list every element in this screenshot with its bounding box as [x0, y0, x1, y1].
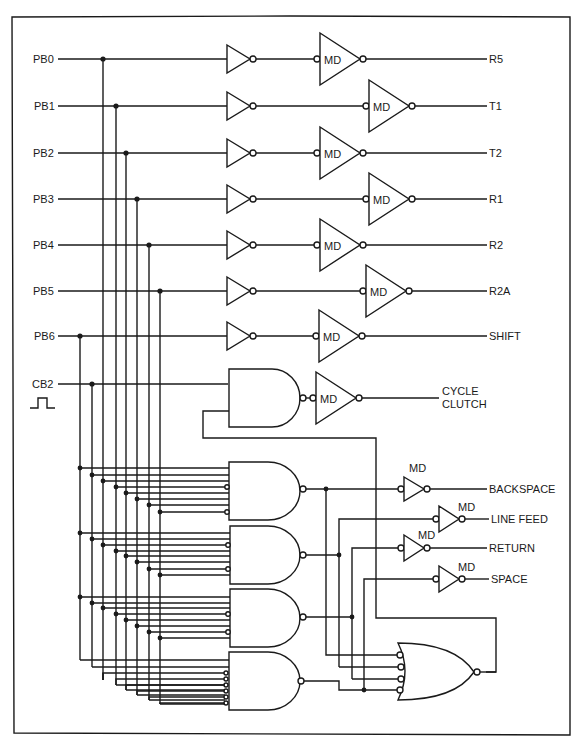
input-label-pb0: PB0 [33, 53, 54, 65]
svg-text:MD: MD [324, 240, 341, 252]
input-label-cb2: CB2 [32, 378, 53, 390]
svg-text:MD: MD [324, 148, 341, 160]
output-label-t2: T2 [489, 147, 502, 159]
inverter-icon [227, 231, 250, 259]
row-pb1: MD T1 [227, 80, 502, 132]
output-label-clutch: CLUTCH [442, 398, 487, 410]
nand-gate-icon [229, 462, 300, 520]
svg-text:MD: MD [323, 331, 340, 343]
input-wires [58, 59, 228, 384]
output-label-cycle: CYCLE [442, 385, 479, 397]
logic-diagram: PB0 PB1 PB2 PB3 PB4 PB5 PB6 CB2 [0, 0, 582, 741]
decode-gate-backspace [78, 462, 306, 520]
output-label-return: RETURN [489, 542, 535, 554]
row-pb4: MD R2 [227, 219, 503, 271]
nand-gate-icon [230, 589, 300, 647]
row-pb2: MD T2 [227, 127, 502, 179]
inverter-icon [227, 45, 250, 73]
row-pb6: MD SHIFT [227, 310, 521, 362]
svg-text:MD: MD [458, 561, 475, 573]
inverter-icon [227, 92, 250, 120]
md-driver-icon [439, 566, 459, 592]
input-label-pb4: PB4 [33, 239, 54, 251]
output-label-r1: R1 [489, 193, 503, 205]
input-label-pb3: PB3 [33, 193, 54, 205]
output-label-t1: T1 [489, 100, 502, 112]
svg-text:MD: MD [370, 286, 387, 298]
row-pb3: MD R1 [227, 173, 503, 225]
nor-gate [397, 643, 496, 700]
inverter-icon [227, 139, 250, 167]
clock-pulse-icon [30, 398, 55, 408]
svg-text:MD: MD [373, 101, 390, 113]
svg-text:MD: MD [418, 529, 435, 541]
or-gate-icon [398, 643, 474, 700]
input-label-pb1: PB1 [34, 100, 55, 112]
input-label-pb2: PB2 [33, 147, 54, 159]
inverter-icon [227, 322, 250, 350]
svg-text:MD: MD [320, 393, 337, 405]
decode-gate-return [78, 589, 306, 647]
output-label-space: SPACE [491, 573, 527, 585]
schematic-canvas: PB0 PB1 PB2 PB3 PB4 PB5 PB6 CB2 [0, 0, 582, 741]
svg-text:MD: MD [409, 462, 426, 474]
output-label-line-feed: LINE FEED [491, 513, 548, 525]
row-pb0: MD R5 [227, 33, 503, 85]
nand-gate-icon [229, 369, 300, 427]
nand-gate-icon [229, 652, 300, 710]
input-label-pb6: PB6 [34, 330, 55, 342]
output-label-r2: R2 [489, 239, 503, 251]
md-driver-icon [404, 477, 424, 501]
output-label-r5: R5 [489, 53, 503, 65]
output-label-r2a: R2A [489, 285, 511, 297]
output-label-shift: SHIFT [489, 330, 521, 342]
input-label-pb5: PB5 [33, 285, 54, 297]
output-label-backspace: BACKSPACE [489, 483, 555, 495]
svg-text:MD: MD [324, 54, 341, 66]
svg-text:MD: MD [458, 501, 475, 513]
decode-gate-space [80, 652, 304, 710]
inverter-icon [227, 277, 250, 305]
inverter-icon [227, 185, 250, 213]
row-pb5: MD R2A [227, 265, 511, 317]
md-driver-icon [439, 506, 459, 532]
decode-gate-line-feed [78, 526, 306, 584]
svg-text:MD: MD [373, 194, 390, 206]
nand-gate-icon [230, 526, 300, 584]
